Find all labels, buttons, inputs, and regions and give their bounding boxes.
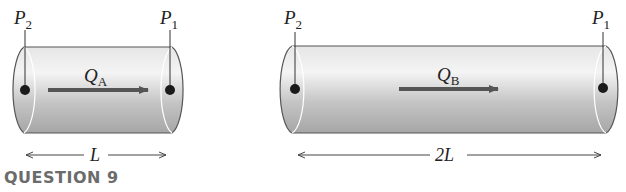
figure: QA P2 P1 L QB P2 P1 2L QUESTION 9 bbox=[0, 0, 626, 192]
p1-label-b: P1 bbox=[591, 7, 610, 32]
p1-label-a: P1 bbox=[159, 7, 178, 32]
pipe-b: QB P2 P1 2L bbox=[280, 7, 618, 165]
point-p2-a bbox=[20, 85, 30, 95]
p2-label-b: P2 bbox=[283, 7, 302, 32]
p2-label-a: P2 bbox=[13, 7, 32, 32]
point-p1-a bbox=[165, 85, 175, 95]
question-label: QUESTION 9 bbox=[4, 168, 119, 187]
point-p1-b bbox=[598, 83, 608, 93]
length-label-a: L bbox=[89, 145, 100, 165]
point-p2-b bbox=[290, 84, 300, 94]
diagram-svg: QA P2 P1 L QB P2 P1 2L bbox=[0, 0, 626, 192]
length-label-b: 2L bbox=[435, 145, 454, 165]
pipe-a: QA P2 P1 L bbox=[13, 7, 183, 165]
